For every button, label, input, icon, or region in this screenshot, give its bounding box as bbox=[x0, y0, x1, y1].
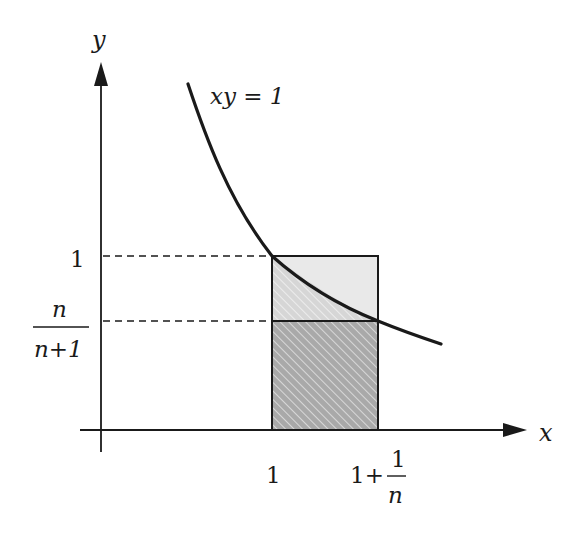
x-tick-one: 1 bbox=[266, 462, 281, 488]
y-tick-frac-denominator: n+1 bbox=[34, 336, 83, 362]
y-tick-frac-numerator: n bbox=[52, 296, 67, 322]
x-tick-frac-denominator: n bbox=[388, 482, 403, 508]
hyperbola-area-diagram: y x xy = 1 1 n n+1 1 1+ 1 n bbox=[0, 0, 586, 533]
y-axis-label: y bbox=[91, 26, 106, 54]
y-tick-one: 1 bbox=[70, 246, 85, 272]
x-tick-frac-numerator: 1 bbox=[391, 446, 406, 472]
curve-label: xy = 1 bbox=[210, 83, 285, 109]
x-tick-one-plus: 1+ bbox=[350, 462, 384, 488]
lower-rectangle-region bbox=[272, 321, 378, 430]
x-axis-label: x bbox=[539, 419, 553, 447]
x-axis-arrow-icon bbox=[503, 423, 527, 437]
y-axis-arrow-icon bbox=[94, 62, 108, 86]
